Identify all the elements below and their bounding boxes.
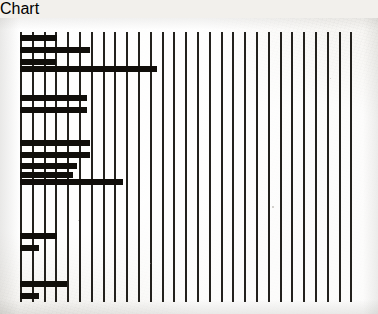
scan-speck [150,263,151,264]
bar [20,35,57,41]
gridline [339,32,341,302]
gridline [138,32,140,302]
bar-chart-plot-area [0,18,378,314]
gridline [91,32,93,302]
gridline [197,32,199,302]
gridline [103,32,105,302]
gridline [173,32,175,302]
bar [20,163,77,169]
gridline [268,32,270,302]
bar [20,66,157,72]
gridline [303,32,305,302]
bar [20,59,56,65]
scan-speck [272,206,274,208]
gridline [280,32,282,302]
bar [20,47,90,53]
gridline [232,32,234,302]
bar [20,293,39,299]
gridline [221,32,223,302]
chart-canvas [0,18,378,314]
gridline [244,32,246,302]
gridline [79,32,81,302]
scan-speck [78,220,79,221]
bar [20,179,123,185]
gridline [209,32,211,302]
gridline [256,32,258,302]
gridline [315,32,317,302]
bar [20,152,90,158]
bar [20,95,87,101]
gridline [126,32,128,302]
gridline [162,32,164,302]
bar [20,140,90,146]
bar [20,233,57,239]
bar [20,281,67,287]
gridline [114,32,116,302]
gridline [327,32,329,302]
scan-speck [330,78,331,79]
bar [20,245,39,251]
bar [20,107,87,113]
gridline [350,32,352,302]
gridline [150,32,152,302]
gridline [291,32,293,302]
gridline [185,32,187,302]
bar [20,172,73,178]
